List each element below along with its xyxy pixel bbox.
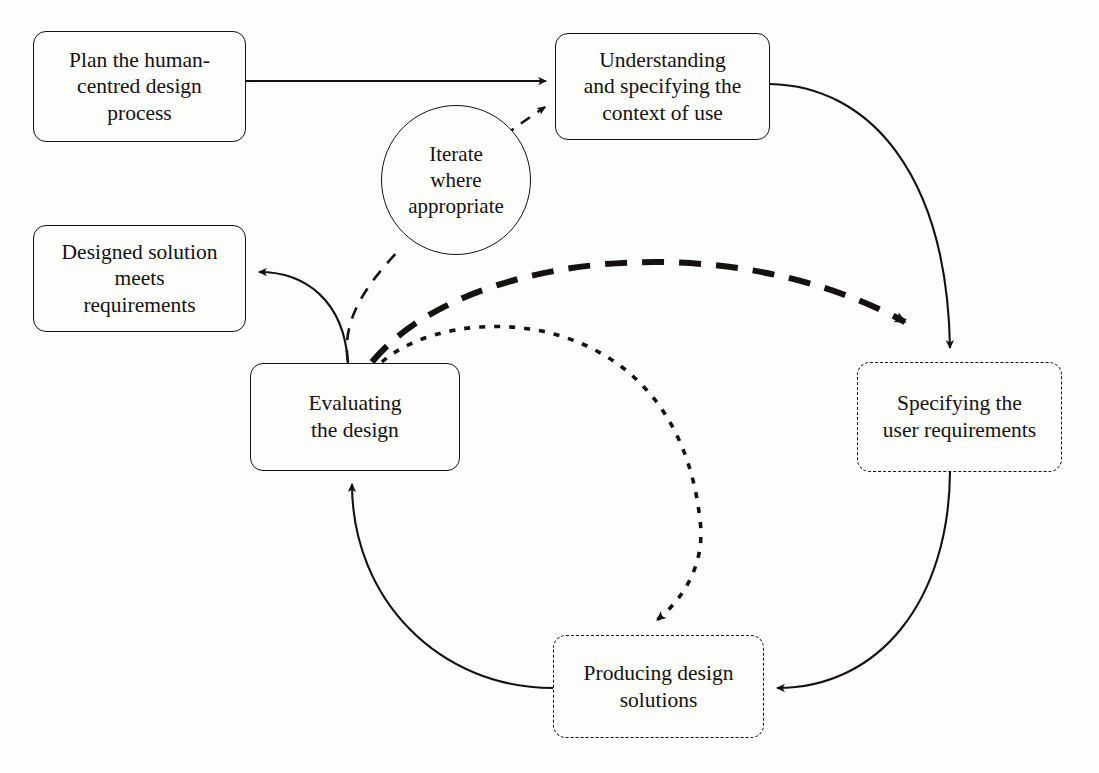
node-producing-design-solutions[interactable]: Producing design solutions (553, 635, 764, 738)
edge-producing-to-evaluating (352, 484, 553, 688)
node-evaluating-the-design[interactable]: Evaluating the design (250, 363, 460, 471)
node-designed-solution-meets-requirements-label: Designed solution meets requirements (56, 239, 224, 319)
hcd-process-diagram: Plan the human- centred design process U… (0, 0, 1099, 773)
node-plan-hcd-process[interactable]: Plan the human- centred design process (33, 31, 246, 142)
node-specifying-user-requirements-label: Specifying the user requirements (877, 390, 1042, 443)
node-iterate-where-appropriate[interactable]: Iterate where appropriate (381, 105, 531, 255)
edge-evaluating-to-specifying (372, 262, 905, 362)
edge-evaluating-to-designed (259, 272, 348, 363)
node-designed-solution-meets-requirements[interactable]: Designed solution meets requirements (33, 225, 246, 332)
node-iterate-where-appropriate-label: Iterate where appropriate (402, 141, 510, 219)
edge-specifying-to-producing (777, 472, 950, 688)
node-evaluating-the-design-label: Evaluating the design (302, 390, 407, 443)
edge-understanding-to-specifying (770, 84, 950, 348)
node-plan-hcd-process-label: Plan the human- centred design process (63, 47, 216, 127)
node-producing-design-solutions-label: Producing design solutions (578, 660, 740, 713)
edge-evaluating-to-iterate (347, 248, 401, 362)
node-specifying-user-requirements[interactable]: Specifying the user requirements (857, 362, 1062, 472)
node-understanding-context-of-use[interactable]: Understanding and specifying the context… (555, 33, 770, 140)
node-understanding-context-of-use-label: Understanding and specifying the context… (578, 47, 748, 127)
